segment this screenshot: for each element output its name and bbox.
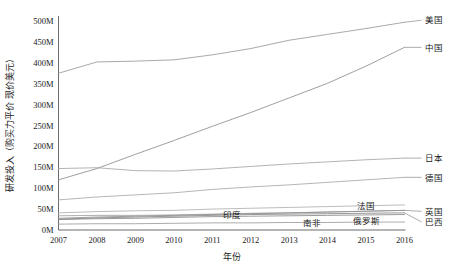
y-tick-label: 100M xyxy=(33,183,54,193)
x-tick-label: 2015 xyxy=(358,235,375,245)
chart-canvas: 0M50M100M150M200M250M300M350M400M450M500… xyxy=(0,0,457,267)
y-tick-label: 50M xyxy=(37,204,54,214)
x-axis: 2007200820092010201120122013201420152016 xyxy=(50,230,413,245)
series-label-1: 中国 xyxy=(425,43,443,53)
y-tick-label: 0M xyxy=(42,225,54,235)
y-tick-label: 300M xyxy=(33,100,54,110)
y-axis-title: 研发投入（购买力平价 现价美元） xyxy=(4,54,15,192)
y-tick-label: 400M xyxy=(33,58,54,68)
x-tick-label: 2016 xyxy=(396,235,413,245)
x-axis-title: 年份 xyxy=(223,251,241,262)
series-label-5: 英国 xyxy=(425,207,443,217)
y-tick-label: 450M xyxy=(33,37,54,47)
x-tick-label: 2010 xyxy=(165,235,182,245)
series-line-3 xyxy=(59,177,405,200)
y-tick-label: 500M xyxy=(33,16,54,26)
x-tick-label: 2007 xyxy=(50,235,67,245)
series-line-1 xyxy=(59,47,405,180)
y-axis: 0M50M100M150M200M250M300M350M400M450M500… xyxy=(33,16,58,235)
series-label-2: 日本 xyxy=(425,153,443,163)
series-line-0 xyxy=(59,22,405,73)
y-tick-label: 200M xyxy=(33,141,54,151)
y-tick-label: 350M xyxy=(33,79,54,89)
series-label-9: 南非 xyxy=(303,218,321,228)
series-label-4: 法国 xyxy=(357,201,375,211)
series-line-2 xyxy=(59,158,405,171)
y-tick-label: 250M xyxy=(33,121,54,131)
series-lines xyxy=(59,22,405,224)
x-tick-label: 2012 xyxy=(242,235,259,245)
x-tick-label: 2013 xyxy=(281,235,298,245)
series-label-3: 德国 xyxy=(425,173,443,183)
x-tick-label: 2011 xyxy=(204,235,221,245)
series-label-0: 美国 xyxy=(425,15,443,25)
x-tick-label: 2014 xyxy=(319,235,337,245)
series-leader-6 xyxy=(405,213,422,222)
rd-expenditure-line-chart: 0M50M100M150M200M250M300M350M400M450M500… xyxy=(0,0,457,267)
series-leader-5 xyxy=(405,210,422,211)
x-tick-label: 2008 xyxy=(88,235,105,245)
series-leader-0 xyxy=(405,20,422,22)
series-label-7: 印度 xyxy=(223,210,241,220)
x-tick-label: 2009 xyxy=(127,235,144,245)
series-label-8: 俄罗斯 xyxy=(353,216,380,226)
y-tick-label: 150M xyxy=(33,162,54,172)
series-label-6: 巴西 xyxy=(425,217,443,227)
